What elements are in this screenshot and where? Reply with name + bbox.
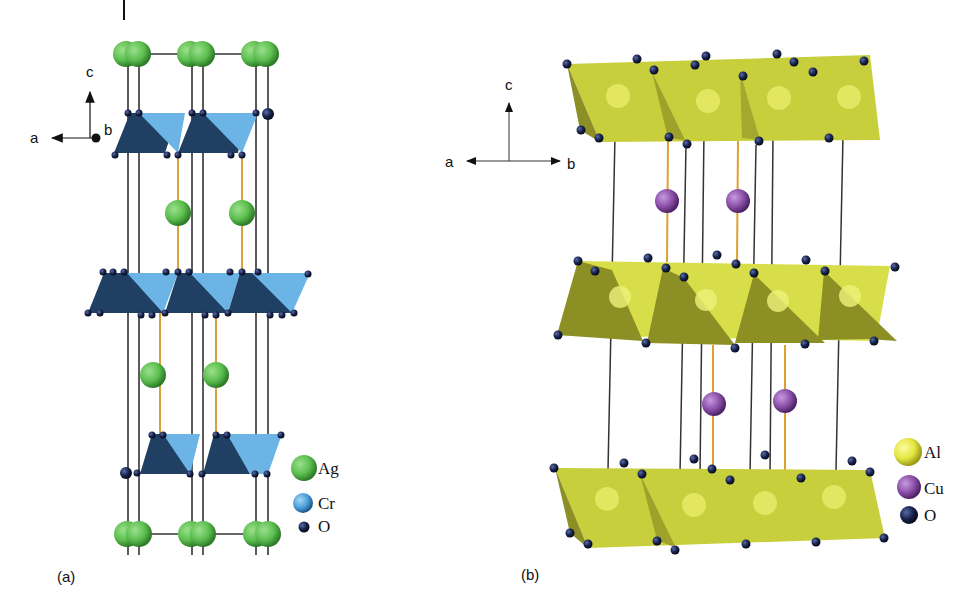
panel-b: c a b Al Cu O (b) (445, 50, 944, 584)
legend-al-swatch (894, 438, 922, 466)
legend-cu-label: Cu (924, 479, 944, 498)
figure-canvas: c a b Ag Cr O (a) (0, 0, 977, 603)
legend-cu-swatch (897, 475, 921, 499)
legend-cr-swatch (293, 493, 313, 513)
panel-b-axis-indicator: c a b (445, 76, 575, 172)
axis-label-c: c (86, 63, 94, 80)
legend-o-label: O (924, 506, 936, 525)
panel-b-legend: Al Cu O (894, 438, 944, 525)
panel-a-cr-layer-middle (88, 273, 310, 313)
legend-o-swatch (900, 506, 918, 524)
b-axis-out-of-plane-icon (92, 134, 101, 143)
legend-al-label: Al (924, 443, 941, 462)
legend-ag-swatch (291, 455, 317, 481)
legend-ag-label: Ag (318, 459, 339, 478)
legend-cr-label: Cr (318, 494, 335, 513)
panel-a-axis-indicator: c a b (30, 63, 112, 146)
panel-a-cr-layer-top (114, 113, 258, 153)
panel-a-cr-layer-bottom (140, 434, 282, 474)
axis-label-c: c (505, 76, 513, 93)
panel-b-al-layer-middle (557, 261, 897, 345)
panel-b-label: (b) (521, 566, 539, 583)
panel-a: c a b Ag Cr O (a) (30, 41, 339, 585)
panel-b-al-layer-bottom (555, 468, 885, 548)
axis-label-a: a (445, 153, 454, 170)
legend-o-swatch (299, 522, 310, 533)
crystal-structure-figure: c a b Ag Cr O (a) (0, 0, 977, 603)
panel-a-label: (a) (57, 568, 75, 585)
axis-label-b: b (104, 121, 112, 138)
panel-a-legend: Ag Cr O (291, 455, 339, 536)
panel-b-al-layer-top (567, 55, 880, 142)
axis-label-a: a (30, 129, 39, 146)
axis-label-b: b (567, 155, 575, 172)
legend-o-label: O (318, 517, 330, 536)
